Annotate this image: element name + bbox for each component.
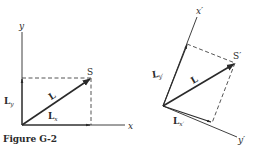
right-component-yprime-label: Ly′ — [151, 68, 164, 82]
right-diagram: x′ y′ S′ L Ly′ Lx′ — [151, 6, 245, 145]
figure-caption: Figure G-2 — [3, 134, 57, 144]
left-diagram: y x S L Ly Lx — [4, 21, 133, 131]
right-vector-label: L — [189, 74, 200, 86]
left-y-axis-label: y — [18, 21, 25, 31]
left-component-y-label: Ly — [4, 96, 14, 108]
left-point-label: S — [87, 67, 93, 77]
right-component-xprime-label: Lx′ — [173, 116, 185, 127]
right-vector-L — [163, 64, 234, 106]
figure-canvas: y x S L Ly Lx Figure G-2 x′ y′ S′ L Ly′ … — [0, 0, 254, 146]
right-point-label: S′ — [233, 51, 241, 61]
left-vector-label: L — [47, 90, 58, 102]
right-component-xprime-arrow — [163, 106, 211, 122]
right-component-yprime-arrow — [163, 45, 187, 106]
left-x-axis-label: x — [128, 121, 133, 131]
right-dashed-top — [187, 44, 235, 63]
left-component-x-label: Lx — [48, 111, 58, 122]
right-xprime-axis-label: x′ — [196, 6, 203, 16]
right-yprime-axis-label: y′ — [237, 135, 245, 145]
right-dashed-side — [212, 63, 235, 123]
